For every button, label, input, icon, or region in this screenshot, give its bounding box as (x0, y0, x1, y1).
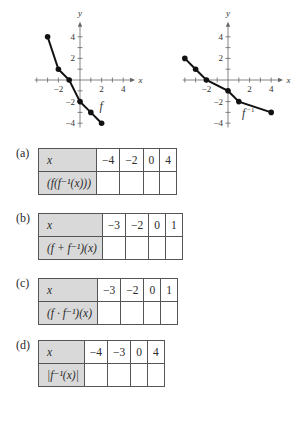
svg-text:−4: −4 (65, 118, 75, 128)
answer-cell[interactable] (160, 172, 177, 195)
answer-cell[interactable] (149, 237, 166, 260)
x-value: −3 (97, 279, 120, 302)
x-value: −2 (120, 149, 143, 172)
table-row: x −3 −2 0 1 (39, 214, 183, 237)
table-row: x −4 −2 0 4 (39, 149, 177, 172)
graph-f-inverse-svg: −22442−2−4xyf−1 (165, 0, 295, 135)
table-row: (f + f⁻¹)(x) (39, 237, 183, 260)
svg-text:−2: −2 (65, 97, 75, 107)
svg-text:−2: −2 (54, 84, 64, 94)
svg-text:4: 4 (219, 32, 224, 42)
part-a-label: (a) (16, 146, 29, 161)
table-row: (f · f⁻¹)(x) (39, 302, 178, 325)
svg-text:2: 2 (71, 53, 76, 63)
part-b-label: (b) (16, 211, 30, 226)
part-d-label: (d) (16, 338, 30, 353)
x-value: 4 (160, 149, 177, 172)
svg-text:4: 4 (71, 32, 76, 42)
answer-cell[interactable] (166, 237, 183, 260)
table-d: x −4 −3 0 4 |f⁻¹(x)| (38, 340, 165, 387)
answer-cell[interactable] (120, 172, 143, 195)
answer-cell[interactable] (102, 237, 125, 260)
x-value: 1 (161, 279, 178, 302)
x-value: −4 (97, 149, 120, 172)
svg-text:4: 4 (121, 84, 126, 94)
x-value: 0 (143, 149, 160, 172)
x-value: −2 (126, 214, 149, 237)
svg-text:−2: −2 (202, 84, 212, 94)
x-value: 0 (149, 214, 166, 237)
part-c-label: (c) (16, 276, 29, 291)
answer-cell[interactable] (144, 302, 161, 325)
svg-text:x: x (137, 75, 142, 85)
x-value: −4 (84, 341, 107, 364)
graph-f: −22442−2−4xyf (20, 0, 150, 135)
graph-f-svg: −22442−2−4xyf (20, 0, 150, 135)
answer-cell[interactable] (126, 237, 149, 260)
x-value: −3 (108, 341, 131, 364)
table-b: x −3 −2 0 1 (f + f⁻¹)(x) (38, 213, 183, 260)
answer-cell[interactable] (161, 302, 178, 325)
table-row: x −3 −2 0 1 (39, 279, 178, 302)
table-c: x −3 −2 0 1 (f · f⁻¹)(x) (38, 278, 178, 325)
graph-f-inverse: −22442−2−4xyf−1 (165, 0, 295, 135)
table-a: x −4 −2 0 4 (f(f⁻¹(x))) (38, 148, 177, 195)
svg-text:y: y (77, 8, 82, 18)
svg-text:−4: −4 (213, 118, 223, 128)
table-row: |f⁻¹(x)| (39, 364, 165, 387)
answer-cell[interactable] (143, 172, 160, 195)
x-header: x (39, 279, 98, 302)
x-value: −2 (121, 279, 144, 302)
svg-text:2: 2 (219, 53, 224, 63)
svg-text:y: y (225, 8, 230, 18)
svg-text:−1: −1 (247, 106, 255, 114)
answer-cell[interactable] (148, 364, 165, 387)
svg-text:2: 2 (247, 84, 252, 94)
answer-cell[interactable] (97, 172, 120, 195)
x-value: 4 (148, 341, 165, 364)
x-value: 0 (131, 341, 148, 364)
x-value: 1 (166, 214, 183, 237)
function-header: |f⁻¹(x)| (39, 364, 85, 387)
x-value: 0 (144, 279, 161, 302)
svg-text:x: x (285, 75, 290, 85)
x-header: x (39, 214, 103, 237)
svg-text:−2: −2 (213, 97, 223, 107)
function-header: (f + f⁻¹)(x) (39, 237, 103, 260)
table-row: (f(f⁻¹(x))) (39, 172, 177, 195)
function-header: (f · f⁻¹)(x) (39, 302, 98, 325)
x-header: x (39, 341, 85, 364)
svg-text:2: 2 (99, 84, 104, 94)
svg-text:f: f (99, 99, 104, 113)
x-value: −3 (102, 214, 125, 237)
answer-cell[interactable] (97, 302, 120, 325)
x-header: x (39, 149, 97, 172)
table-row: x −4 −3 0 4 (39, 341, 165, 364)
svg-text:4: 4 (269, 84, 274, 94)
answer-cell[interactable] (84, 364, 107, 387)
function-header: (f(f⁻¹(x))) (39, 172, 97, 195)
answer-cell[interactable] (131, 364, 148, 387)
answer-cell[interactable] (121, 302, 144, 325)
answer-cell[interactable] (108, 364, 131, 387)
